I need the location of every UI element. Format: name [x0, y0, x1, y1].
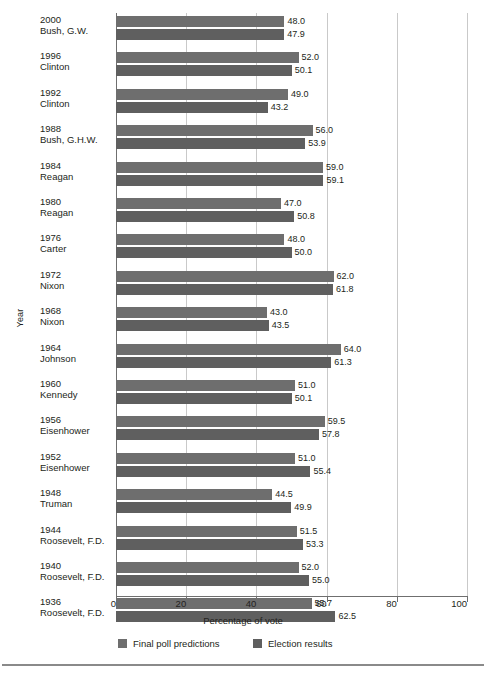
- plot-area: 48.047.952.050.149.043.256.053.959.059.1…: [116, 13, 467, 596]
- category-candidate: Carter: [40, 243, 66, 254]
- bar-value-label-result: 43.2: [268, 99, 289, 115]
- bar-final-poll-prediction[interactable]: [116, 526, 297, 537]
- bar-value-label-result: 47.9: [284, 26, 305, 42]
- x-tick-label-100: 100: [427, 598, 471, 609]
- bar-value-label-result: 61.8: [333, 281, 354, 297]
- legend-label: Election results: [268, 638, 332, 649]
- bar-election-result[interactable]: [116, 539, 303, 550]
- footer-divider: [2, 664, 484, 666]
- bar-group: 52.055.0: [116, 559, 467, 595]
- bar-final-poll-prediction[interactable]: [116, 125, 313, 136]
- category-year: 1992: [40, 87, 61, 98]
- bar-final-poll-prediction[interactable]: [116, 16, 284, 27]
- legend-item[interactable]: Final poll predictions: [118, 638, 220, 649]
- bar-value-label-result: 55.0: [309, 572, 330, 588]
- bar-final-poll-prediction[interactable]: [116, 453, 295, 464]
- category-label: 1948Truman: [0, 486, 112, 522]
- category-label: 1996Clinton: [0, 49, 112, 85]
- bar-election-result[interactable]: [116, 357, 331, 368]
- x-tick-label-40: 40: [216, 598, 260, 609]
- category-year: 1980: [40, 196, 61, 207]
- bar-rows: 48.047.952.050.149.043.256.053.959.059.1…: [116, 13, 467, 596]
- category-year: 1936: [40, 596, 61, 607]
- chart-legend: Final poll predictionsElection results: [0, 638, 486, 654]
- bar-final-poll-prediction[interactable]: [116, 380, 295, 391]
- bar-election-result[interactable]: [116, 102, 268, 113]
- category-candidate: Bush, G.W.: [40, 25, 88, 36]
- bar-election-result[interactable]: [116, 429, 319, 440]
- category-label: 1968Nixon: [0, 304, 112, 340]
- bar-final-poll-prediction[interactable]: [116, 562, 299, 573]
- category-candidate: Nixon: [40, 280, 64, 291]
- bar-value-label-prediction: 49.0: [288, 86, 309, 102]
- x-axis-label: Percentage of vote: [0, 615, 486, 626]
- bar-final-poll-prediction[interactable]: [116, 162, 323, 173]
- bar-final-poll-prediction[interactable]: [116, 344, 341, 355]
- legend-item[interactable]: Election results: [253, 638, 332, 649]
- bar-election-result[interactable]: [116, 575, 309, 586]
- x-tick-label-60: 60: [287, 598, 331, 609]
- category-candidate: Clinton: [40, 61, 70, 72]
- bar-value-label-result: 53.3: [303, 536, 324, 552]
- gridline-100: [467, 13, 468, 596]
- bar-election-result[interactable]: [116, 211, 294, 222]
- bar-group: 52.050.1: [116, 49, 467, 85]
- x-axis-line: [116, 596, 467, 597]
- bar-election-result[interactable]: [116, 65, 292, 76]
- bar-final-poll-prediction[interactable]: [116, 307, 267, 318]
- bar-group: 47.050.8: [116, 195, 467, 231]
- bar-election-result[interactable]: [116, 466, 310, 477]
- bar-election-result[interactable]: [116, 138, 305, 149]
- bar-final-poll-prediction[interactable]: [116, 489, 272, 500]
- bar-election-result[interactable]: [116, 320, 269, 331]
- bar-election-result[interactable]: [116, 393, 292, 404]
- bar-final-poll-prediction[interactable]: [116, 271, 334, 282]
- bar-value-label-result: 50.8: [294, 208, 315, 224]
- category-label: 1976Carter: [0, 231, 112, 267]
- category-year: 1960: [40, 378, 61, 389]
- bar-election-result[interactable]: [116, 175, 323, 186]
- bar-election-result[interactable]: [116, 29, 284, 40]
- category-label: 1956Eisenhower: [0, 413, 112, 449]
- category-label: 1944Roosevelt, F.D.: [0, 523, 112, 559]
- category-candidate: Eisenhower: [40, 462, 90, 473]
- bar-value-label-result: 57.8: [319, 426, 340, 442]
- bar-value-label-result: 50.1: [292, 390, 313, 406]
- bar-election-result[interactable]: [116, 247, 292, 258]
- bar-group: 59.059.1: [116, 159, 467, 195]
- bar-group: 49.043.2: [116, 86, 467, 122]
- bar-value-label-result: 49.9: [291, 499, 312, 515]
- category-year: 1940: [40, 560, 61, 571]
- category-year: 1984: [40, 160, 61, 171]
- category-year: 1952: [40, 451, 61, 462]
- category-year: 1968: [40, 305, 61, 316]
- bar-final-poll-prediction[interactable]: [116, 52, 299, 63]
- category-candidate: Clinton: [40, 98, 70, 109]
- bar-value-label-result: 53.9: [305, 135, 326, 151]
- bar-chart-figure: Year 2000Bush, G.W.1996Clinton1992Clinto…: [0, 0, 486, 677]
- x-tick-label-20: 20: [146, 598, 190, 609]
- category-candidate: Truman: [40, 498, 72, 509]
- bar-group: 56.053.9: [116, 122, 467, 158]
- bar-group: 59.557.8: [116, 413, 467, 449]
- category-year: 1964: [40, 342, 61, 353]
- bar-final-poll-prediction[interactable]: [116, 234, 284, 245]
- category-candidate: Reagan: [40, 207, 73, 218]
- bar-election-result[interactable]: [116, 284, 333, 295]
- bar-group: 51.050.1: [116, 377, 467, 413]
- bar-final-poll-prediction[interactable]: [116, 89, 288, 100]
- bar-group: 62.061.8: [116, 268, 467, 304]
- bar-election-result[interactable]: [116, 502, 291, 513]
- bar-final-poll-prediction[interactable]: [116, 198, 281, 209]
- bar-value-label-result: 61.3: [331, 354, 352, 370]
- category-candidate: Kennedy: [40, 389, 78, 400]
- bar-value-label-result: 59.1: [323, 172, 344, 188]
- category-year: 2000: [40, 14, 61, 25]
- category-candidate: Johnson: [40, 353, 76, 364]
- category-year: 1996: [40, 50, 61, 61]
- bar-final-poll-prediction[interactable]: [116, 416, 325, 427]
- category-candidate: Nixon: [40, 316, 64, 327]
- category-label: 1964Johnson: [0, 341, 112, 377]
- legend-swatch-icon: [253, 639, 262, 648]
- x-tick-label-0: 0: [76, 598, 120, 609]
